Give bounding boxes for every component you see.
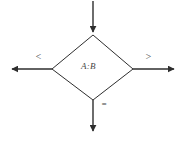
decision-condition-label: A:B: [81, 62, 96, 71]
flowchart-figure: A:B < > =: [0, 0, 184, 141]
less-than-branch-label: <: [35, 52, 42, 62]
greater-than-branch-label: >: [145, 52, 152, 62]
equal-branch-label: =: [101, 100, 107, 109]
